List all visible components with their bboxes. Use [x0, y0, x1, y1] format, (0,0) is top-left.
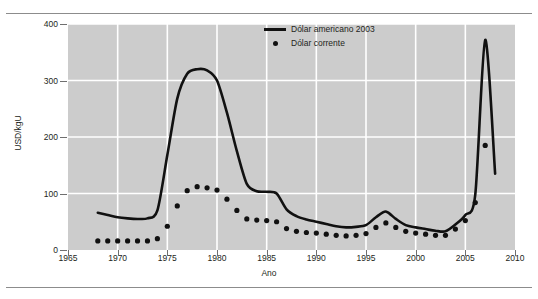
data-point-marker: [224, 197, 229, 202]
x-axis-tick-mark: [167, 250, 168, 256]
data-point-marker: [274, 219, 279, 224]
data-point-marker: [403, 229, 408, 234]
data-point-marker: [353, 233, 358, 238]
data-point-marker: [145, 238, 150, 243]
data-point-marker: [463, 218, 468, 223]
data-point-marker: [195, 184, 200, 189]
data-point-marker: [204, 185, 209, 190]
data-point-marker: [393, 225, 398, 230]
data-point-marker: [294, 229, 299, 234]
legend-item-label: Dólar americano 2003: [291, 24, 375, 34]
x-axis-tick-mark: [515, 250, 516, 256]
x-axis-tick-mark: [416, 250, 417, 256]
data-point-marker: [314, 230, 319, 235]
y-axis-tick-mark: [60, 24, 67, 25]
data-point-marker: [443, 233, 448, 238]
x-axis-tick-mark: [217, 250, 218, 256]
data-point-marker: [125, 238, 130, 243]
data-point-marker: [284, 226, 289, 231]
data-point-marker: [155, 236, 160, 241]
data-point-marker: [334, 233, 339, 238]
y-axis-title: USD/kgU: [13, 103, 23, 163]
y-axis-tick-mark: [60, 137, 67, 138]
page-rule-bottom: [6, 287, 532, 288]
legend-item-dot: Dólar corrente: [262, 36, 375, 50]
data-point-marker: [214, 188, 219, 193]
data-point-marker: [344, 233, 349, 238]
data-point-marker: [383, 220, 388, 225]
x-axis-tick-mark: [118, 250, 119, 256]
x-axis-tick-mark: [68, 250, 69, 256]
data-point-marker: [433, 233, 438, 238]
y-axis-tick-label: 200: [28, 133, 58, 142]
y-axis-tick-label: 300: [28, 77, 58, 86]
y-axis-tick-label: 100: [28, 190, 58, 199]
data-point-marker: [135, 238, 140, 243]
data-point-marker: [363, 231, 368, 236]
data-point-marker: [373, 225, 378, 230]
data-point-marker: [473, 200, 478, 205]
data-point-marker: [453, 226, 458, 231]
data-point-marker: [165, 224, 170, 229]
legend-line-marker-icon: [262, 28, 288, 31]
data-point-marker: [185, 188, 190, 193]
data-point-marker: [483, 143, 488, 148]
y-axis-tick-mark: [60, 81, 67, 82]
y-axis-tick-label: 400: [28, 20, 58, 29]
y-axis-tick-mark: [60, 194, 67, 195]
data-point-marker: [105, 238, 110, 243]
x-axis-tick-mark: [465, 250, 466, 256]
data-point-marker: [234, 208, 239, 213]
plot-canvas: [68, 24, 515, 250]
data-point-marker: [264, 218, 269, 223]
data-point-marker: [95, 238, 100, 243]
data-point-marker: [423, 232, 428, 237]
x-axis-tick-mark: [316, 250, 317, 256]
data-point-marker: [304, 230, 309, 235]
x-axis-tick-mark: [267, 250, 268, 256]
x-axis-tick-mark: [366, 250, 367, 256]
legend-item-label: Dólar corrente: [291, 38, 345, 48]
page-rule-top: [6, 13, 532, 14]
x-axis-title: Ano: [0, 268, 538, 278]
data-point-marker: [324, 232, 329, 237]
chart-legend: Dólar americano 2003 Dólar corrente: [262, 22, 375, 50]
data-point-marker: [175, 203, 180, 208]
y-axis-tick-mark: [60, 250, 67, 251]
data-point-marker: [244, 216, 249, 221]
data-point-marker: [254, 217, 259, 222]
data-point-marker: [413, 230, 418, 235]
plot-area: [68, 24, 515, 250]
data-point-marker: [115, 238, 120, 243]
data-series-line: [98, 40, 495, 232]
chart-figure: USD/kgU Ano 0100200300400 19651970197519…: [0, 0, 538, 299]
legend-dot-marker-icon: [262, 41, 288, 46]
legend-item-line: Dólar americano 2003: [262, 22, 375, 36]
